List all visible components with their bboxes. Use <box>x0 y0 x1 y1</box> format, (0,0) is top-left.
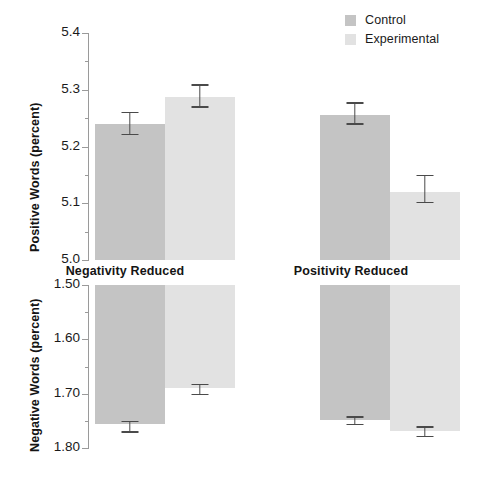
panel-negative-positivity-reduced <box>250 272 499 483</box>
panel-negative-negativity-reduced: Negative Words (percent) 1.501.601.701.8… <box>0 272 250 483</box>
error-bar-stem <box>424 175 425 203</box>
bar-experimental <box>390 285 460 431</box>
y-axis-tick-label: 1.70 <box>32 386 80 400</box>
y-axis-label-positive-words: Positive Words (percent) <box>28 103 42 252</box>
y-axis-tick-major <box>82 90 89 91</box>
bar-control <box>95 124 165 260</box>
error-bar-cap-bottom <box>417 202 434 204</box>
y-axis-tick-label: 5.4 <box>32 25 80 39</box>
error-bar-cap-top <box>417 175 434 177</box>
plot-area-bottom-left <box>95 285 235 448</box>
y-axis-tick-major <box>82 203 89 204</box>
panel-positive-positivity-reduced: Positivity Reduced <box>250 20 499 270</box>
error-bar-cap-bottom <box>122 134 139 136</box>
y-axis-tick-label: 5.2 <box>32 139 80 153</box>
error-bar-cap-top <box>347 102 364 104</box>
y-axis-tick-minor <box>85 232 89 233</box>
y-axis-tick-minor <box>85 175 89 176</box>
plot-area-top-right <box>320 33 460 260</box>
y-axis-tick-label: 1.80 <box>32 440 80 454</box>
y-axis-tick-label: 1.60 <box>32 331 80 345</box>
bar-control <box>320 115 390 260</box>
y-axis-tick-minor <box>85 367 89 368</box>
y-axis-tick-major <box>82 448 89 449</box>
error-bar-cap-bottom <box>122 431 139 433</box>
error-bar-cap-top <box>192 84 209 86</box>
error-bar-cap-bottom <box>417 436 434 438</box>
error-bar-stem <box>199 84 200 108</box>
error-bar-cap-top <box>347 416 364 418</box>
y-axis-tick-minor <box>85 118 89 119</box>
error-bar-cap-bottom <box>192 394 209 396</box>
error-bar-cap-top <box>417 426 434 428</box>
error-bar-stem <box>354 102 355 125</box>
y-axis-tick-major <box>82 260 89 261</box>
y-axis-label-negative-words: Negative Words (percent) <box>28 298 42 452</box>
y-axis-tick-major <box>82 147 89 148</box>
figure-bar-chart: Control Experimental Positive Words (per… <box>0 0 499 483</box>
error-bar-cap-top <box>122 421 139 423</box>
y-axis-tick-major <box>82 339 89 340</box>
y-axis-tick-major <box>82 394 89 395</box>
y-axis-tick-label: 5.3 <box>32 82 80 96</box>
error-bar-cap-bottom <box>347 424 364 426</box>
bar-control <box>95 285 165 424</box>
y-axis-tick-label: 1.50 <box>32 277 80 291</box>
y-axis-tick-label: 5.1 <box>32 195 80 209</box>
panel-positive-negativity-reduced: Positive Words (percent) 5.05.15.25.35.4… <box>0 20 250 270</box>
y-axis-tick-major <box>82 285 89 286</box>
y-axis-tick-major <box>82 33 89 34</box>
y-axis-tick-minor <box>85 421 89 422</box>
error-bar-cap-bottom <box>192 106 209 108</box>
bar-control <box>320 285 390 420</box>
y-axis-tick-minor <box>85 312 89 313</box>
y-axis-tick-minor <box>85 61 89 62</box>
bar-experimental <box>165 285 235 388</box>
error-bar-cap-bottom <box>347 123 364 125</box>
error-bar-cap-top <box>192 384 209 386</box>
bar-experimental <box>165 97 235 260</box>
error-bar-stem <box>129 112 130 135</box>
plot-area-top-left <box>95 33 235 260</box>
error-bar-cap-top <box>122 112 139 114</box>
plot-area-bottom-right <box>320 285 460 448</box>
